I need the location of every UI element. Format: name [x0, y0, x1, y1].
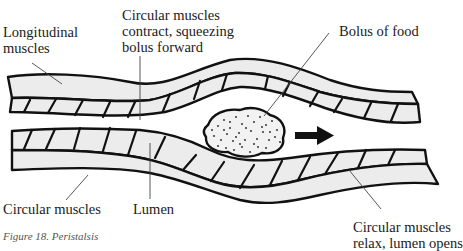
figure-caption: Figure 18. Peristalsis	[3, 230, 98, 242]
leader-circular-bottom	[66, 175, 88, 200]
label-bolus-of-food: Bolus of food	[339, 23, 419, 39]
label-circular-relax: Circular muscles relax, lumen opens	[353, 219, 463, 251]
direction-arrow-icon	[295, 126, 334, 145]
label-lumen: Lumen	[133, 201, 174, 217]
label-circular-muscles: Circular muscles	[3, 201, 101, 217]
label-longitudinal-muscles: Longitudinal muscles	[3, 24, 78, 56]
bolus-of-food	[204, 108, 285, 157]
label-circular-contract: Circular muscles contract, squeezing bol…	[122, 7, 234, 55]
upper-wall	[8, 59, 420, 123]
